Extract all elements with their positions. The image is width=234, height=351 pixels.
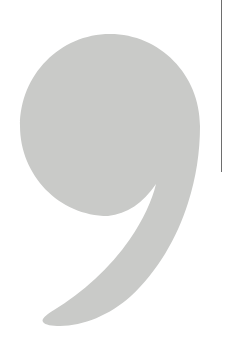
caption-layer: Decorative Comma Mark , Large gray decor… — [0, 0, 234, 351]
page-canvas: Decorative Comma Mark , Large gray decor… — [0, 0, 234, 351]
